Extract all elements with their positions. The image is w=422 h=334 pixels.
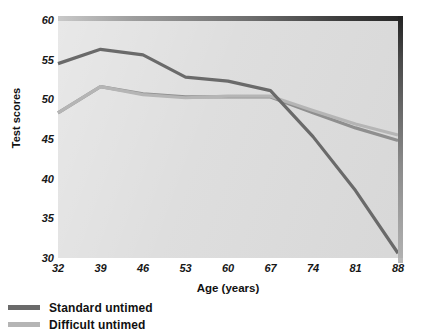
- legend-swatch-icon: [8, 322, 40, 327]
- plot-frame-top-edge: [58, 16, 402, 21]
- plot-frame-right-edge: [398, 16, 403, 263]
- legend-item[interactable]: Standard untimed: [8, 299, 268, 316]
- x-axis-title: Age (years): [58, 282, 398, 294]
- x-tick-label: 39: [94, 262, 106, 274]
- x-axis-tick-group: 323946536067748188: [0, 262, 422, 280]
- x-tick-label: 46: [137, 262, 149, 274]
- x-tick-label: 53: [179, 262, 191, 274]
- series-line-standard-untimed: [58, 49, 398, 253]
- legend-label: Standard untimed: [49, 301, 153, 315]
- y-axis-title: Test scores: [10, 58, 22, 178]
- legend-label: Difficult untimed: [49, 318, 145, 332]
- plot-area: [58, 20, 398, 258]
- y-tick-label: 50: [42, 93, 54, 105]
- x-tick-label: 88: [392, 262, 404, 274]
- y-tick-label: 35: [42, 212, 54, 224]
- y-tick-label: 60: [42, 14, 54, 26]
- x-tick-label: 74: [307, 262, 319, 274]
- legend-swatch-icon: [8, 305, 40, 310]
- x-tick-label: 67: [264, 262, 276, 274]
- legend-item[interactable]: Difficult untimed: [8, 316, 268, 333]
- y-tick-label: 55: [42, 54, 54, 66]
- chart-legend: Standard untimedDifficult untimed: [8, 299, 268, 333]
- y-axis-tick-group: 60555045403530: [0, 0, 54, 334]
- y-tick-label: 40: [42, 173, 54, 185]
- chart-figure: 60555045403530 Test scores 3239465360677…: [0, 0, 422, 334]
- x-tick-label: 32: [52, 262, 64, 274]
- series-lines: [58, 20, 398, 258]
- y-tick-label: 45: [42, 133, 54, 145]
- x-tick-label: 60: [222, 262, 234, 274]
- series-line-difficult-untimed: [58, 87, 398, 135]
- x-tick-label: 81: [349, 262, 361, 274]
